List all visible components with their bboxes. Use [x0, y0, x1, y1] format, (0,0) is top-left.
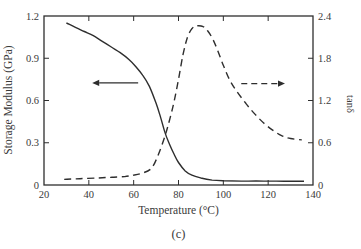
x-axis-label: Temperature (°C) [138, 204, 219, 217]
figure-caption: (c) [172, 227, 186, 241]
storage-modulus-arrow-head [92, 80, 99, 86]
y-right-tick-label: 1.2 [318, 95, 331, 106]
annotations [92, 80, 285, 87]
y-axis-label-left: Storage Modulus (GPa) [2, 45, 15, 154]
y-left-tick-label: 0.3 [26, 137, 39, 148]
axis-ticks [44, 16, 313, 185]
x-tick-label: 120 [260, 189, 276, 200]
y-left-tick-label: 0.9 [26, 53, 39, 64]
dma-chart-figure: 2040608010012014000.30.60.91.200.61.21.8… [0, 0, 361, 249]
y-left-tick-label: 0.6 [26, 95, 39, 106]
tick-labels: 2040608010012014000.30.60.91.200.61.21.8… [26, 11, 332, 201]
x-tick-label: 60 [128, 189, 139, 200]
y-left-tick-label: 0 [34, 180, 39, 191]
tan-delta-arrow-head [278, 80, 285, 86]
y-right-tick-label: 1.8 [318, 53, 331, 64]
y-right-tick-label: 0 [318, 180, 323, 191]
y-right-tick-label: 0.6 [318, 137, 331, 148]
chart-svg: 2040608010012014000.30.60.91.200.61.21.8… [0, 0, 361, 249]
y-right-tick-label: 2.4 [318, 11, 332, 22]
y-axis-label-right: tanδ [345, 95, 356, 113]
x-tick-label: 140 [305, 189, 321, 200]
plot-frame [44, 16, 313, 185]
x-tick-label: 40 [84, 189, 95, 200]
y-left-tick-label: 1.2 [26, 11, 39, 22]
plot-border [44, 16, 313, 185]
x-tick-label: 80 [173, 189, 184, 200]
x-tick-label: 100 [215, 189, 231, 200]
x-tick-label: 20 [39, 189, 50, 200]
series-storage-modulus [66, 23, 304, 181]
series-tan-delta [64, 26, 302, 180]
series-lines [64, 23, 304, 181]
